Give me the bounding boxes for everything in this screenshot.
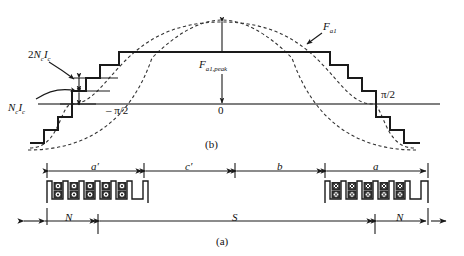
leader-NcIc	[36, 90, 76, 99]
axis-label-negative-half-pi: – π/2	[106, 104, 128, 116]
pole-label-N-right: N	[396, 211, 403, 223]
dimension-label-c-prime: c′	[185, 160, 192, 172]
leader-2NcIc	[49, 62, 74, 79]
pole-label-S: S	[232, 211, 238, 223]
slot-conductor-cross	[332, 182, 341, 199]
pole-label-N-left: N	[65, 211, 72, 223]
slot-conductor-cross	[364, 182, 373, 199]
dimension-label-b: b	[277, 160, 283, 172]
dimension-row	[47, 163, 428, 178]
figure-canvas: 2NcIc NcIc – π/2 0 π/2 Fa1 Fa1,peak (b) …	[0, 0, 464, 256]
axis-label-positive-half-pi: π/2	[381, 88, 395, 100]
slot-conductor-dot	[102, 182, 111, 199]
slot-conductor-cross	[380, 182, 389, 199]
label-Fa1-peak: Fa1,peak	[199, 58, 227, 72]
slot-conductor-dot	[70, 182, 79, 199]
label-NcIc: NcIc	[8, 101, 25, 115]
slot-conductor-dot	[54, 182, 63, 199]
label-Fa1: Fa1	[323, 20, 337, 34]
slot-conductor-cross	[348, 182, 357, 199]
slot-conductor-dot	[86, 182, 95, 199]
subfigure-label-b: (b)	[205, 138, 218, 150]
slot-conductor-cross	[396, 182, 405, 199]
subfigure-label-a: (a)	[216, 235, 228, 247]
dimension-label-a-prime: a′	[91, 160, 99, 172]
slot-conductor-dot	[118, 182, 127, 199]
axis-label-zero: 0	[218, 104, 224, 116]
label-2NcIc: 2NcIc	[28, 48, 51, 62]
dimension-label-a: a	[373, 160, 379, 172]
leader-Fa1	[307, 33, 322, 44]
